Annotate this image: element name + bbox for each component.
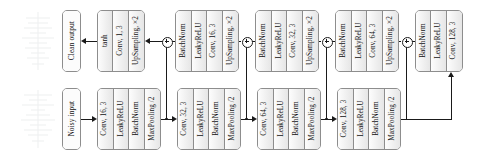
layer-cell: MaxPooling /2 — [385, 89, 401, 149]
architecture-diagram: Clean output tanh Conv, 1, 3 UpSampling,… — [0, 0, 484, 159]
layer-label: Conv, 1, 3 — [117, 26, 124, 56]
layer-label: MaxPooling /2 — [229, 97, 236, 141]
arrowhead — [332, 116, 337, 122]
connector-encoder4-to-bottleneck-riser — [451, 77, 452, 119]
layer-cell: UpSampling, ×2 — [223, 11, 239, 71]
layer-label: BatchNorm — [133, 102, 140, 136]
arrowhead — [252, 116, 257, 122]
layer-cell: Conv, 1, 3 — [113, 11, 128, 71]
arrowhead — [92, 116, 97, 122]
layer-label: BatchNorm — [340, 24, 347, 58]
layer-cell: Conv, 128, 3 — [338, 89, 354, 149]
decoder-block-output: tanh Conv, 1, 3 UpSampling, ×2 — [97, 10, 145, 72]
layer-label: LeakyReLU — [435, 23, 442, 59]
noisy-input-label: Noisy input — [68, 101, 75, 137]
layer-label: Conv, 32, 3 — [291, 24, 298, 58]
layer-label: BatchNorm — [260, 24, 267, 58]
layer-label: BatchNorm — [213, 102, 220, 136]
encoder-block-3: Conv, 64, 3 LeakyReLU BatchNorm MaxPooli… — [257, 88, 321, 150]
layer-label: MaxPooling /2 — [309, 97, 316, 141]
skip-connection-3 — [326, 44, 327, 119]
layer-label: Conv, 16, 3 — [211, 24, 218, 58]
layer-cell: LeakyReLU — [274, 89, 290, 149]
layer-label: UpSampling, ×2 — [133, 17, 140, 66]
layer-label: tanh — [102, 35, 109, 48]
layer-cell: BatchNorm — [129, 89, 145, 149]
layer-label: BatchNorm — [373, 102, 380, 136]
layer-cell: UpSampling, ×2 — [129, 11, 144, 71]
arrowhead — [81, 38, 86, 44]
arrowhead — [145, 38, 150, 44]
encoder-block-2: Conv, 32, 3 LeakyReLU BatchNorm MaxPooli… — [177, 88, 241, 150]
layer-label: Conv, 64, 3 — [371, 24, 378, 58]
layer-label: LeakyReLU — [195, 23, 202, 59]
layer-label: Conv, 32, 3 — [182, 102, 189, 136]
layer-cell: LeakyReLU — [352, 11, 368, 71]
layer-cell: LeakyReLU — [272, 11, 288, 71]
clean-output-cell: Clean output — [63, 11, 80, 71]
skip-connection-4 — [406, 44, 407, 119]
layer-label: Conv, 128, 3 — [342, 100, 349, 138]
layer-label: LeakyReLU — [275, 23, 282, 59]
layer-cell: tanh — [98, 11, 113, 71]
layer-label: UpSampling, ×2 — [307, 17, 314, 66]
layer-cell: LeakyReLU — [354, 89, 370, 149]
layer-label: BatchNorm — [293, 102, 300, 136]
clean-output-box: Clean output — [62, 10, 81, 72]
layer-label: LeakyReLU — [277, 101, 284, 137]
layer-cell: BatchNorm — [289, 89, 305, 149]
layer-cell: MaxPooling /2 — [145, 89, 161, 149]
encoder-block-1: Conv, 16, 3 LeakyReLU BatchNorm MaxPooli… — [97, 88, 161, 150]
layer-cell: BatchNorm — [209, 89, 225, 149]
layer-cell: LeakyReLU — [194, 89, 210, 149]
connector-sum2-to-decoder1 — [239, 41, 241, 42]
arrowhead — [172, 116, 177, 122]
connector-input-to-encoder1 — [81, 119, 92, 120]
layer-cell: BatchNorm — [176, 11, 192, 71]
sum-junction-2 — [242, 37, 253, 48]
sum-junction-1 — [162, 37, 173, 48]
layer-cell: Conv, 32, 3 — [178, 89, 194, 149]
skip-connection-1 — [166, 44, 167, 119]
encoder-block-4: Conv, 128, 3 LeakyReLU BatchNorm MaxPool… — [337, 88, 401, 150]
clean-output-label: Clean output — [68, 21, 75, 60]
layer-label: BatchNorm — [180, 24, 187, 58]
layer-cell: Conv, 16, 3 — [207, 11, 223, 71]
layer-cell: Conv, 128, 3 — [447, 11, 462, 71]
layer-label: UpSampling, ×2 — [387, 17, 394, 66]
layer-label: Conv, 128, 3 — [451, 22, 458, 60]
layer-label: MaxPooling /2 — [149, 97, 156, 141]
layer-label: LeakyReLU — [357, 101, 364, 137]
layer-cell: UpSampling, ×2 — [303, 11, 319, 71]
noisy-input-box: Noisy input — [62, 88, 81, 150]
layer-cell: LeakyReLU — [431, 11, 446, 71]
connector-encoder4-to-bottleneck — [401, 119, 452, 120]
layer-cell: Conv, 16, 3 — [98, 89, 114, 149]
layer-label: LeakyReLU — [197, 101, 204, 137]
layer-cell: Conv, 64, 3 — [258, 89, 274, 149]
layer-cell: BatchNorm — [416, 11, 431, 71]
decoder-block-bottleneck: BatchNorm LeakyReLU Conv, 128, 3 — [415, 10, 463, 72]
layer-label: MaxPooling /2 — [389, 97, 396, 141]
arrowhead — [448, 72, 454, 77]
layer-label: Conv, 64, 3 — [262, 102, 269, 136]
clean-output-waveform-thumbnail — [18, 10, 58, 72]
noisy-input-waveform-thumbnail — [18, 88, 58, 150]
noisy-input-cell: Noisy input — [63, 89, 80, 149]
layer-cell: LeakyReLU — [114, 89, 130, 149]
layer-label: LeakyReLU — [117, 101, 124, 137]
layer-cell: UpSampling, ×2 — [383, 11, 399, 71]
layer-label: LeakyReLU — [355, 23, 362, 59]
layer-cell: Conv, 32, 3 — [287, 11, 303, 71]
sum-junction-3 — [322, 37, 333, 48]
layer-cell: BatchNorm — [336, 11, 352, 71]
layer-label: Conv, 16, 3 — [102, 102, 109, 136]
layer-cell: MaxPooling /2 — [225, 89, 241, 149]
connector-sum3-to-decoder2 — [319, 41, 321, 42]
layer-cell: BatchNorm — [369, 89, 385, 149]
decoder-block-2: BatchNorm LeakyReLU Conv, 32, 3 UpSampli… — [255, 10, 319, 72]
sum-junction-4 — [402, 37, 413, 48]
layer-cell: Conv, 64, 3 — [367, 11, 383, 71]
decoder-block-3: BatchNorm LeakyReLU Conv, 64, 3 UpSampli… — [335, 10, 399, 72]
connector-sum4-to-decoder3 — [399, 41, 401, 42]
